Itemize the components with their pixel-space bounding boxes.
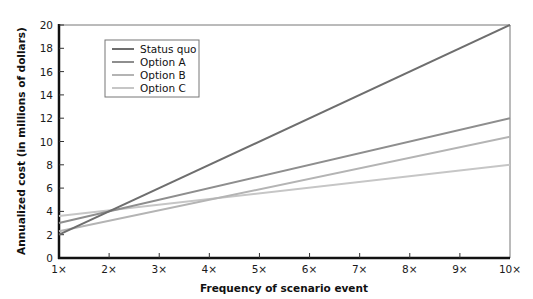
x-tick-label: 6× <box>302 263 317 275</box>
legend: Status quoOption AOption BOption C <box>105 40 199 97</box>
x-tick-label: 3× <box>151 263 166 275</box>
series-line-option-b <box>59 137 510 231</box>
y-tick-label: 4 <box>46 205 53 217</box>
x-tick-label: 1× <box>51 263 66 275</box>
y-tick-label: 2 <box>46 229 53 241</box>
y-tick-label: 18 <box>40 42 53 54</box>
series-line-option-c <box>59 165 510 216</box>
y-tick-label: 12 <box>40 112 53 124</box>
x-tick-label: 7× <box>352 263 367 275</box>
y-tick-label: 10 <box>40 136 53 148</box>
x-tick-label: 9× <box>452 263 467 275</box>
legend-label: Option C <box>140 82 186 94</box>
x-tick-label: 8× <box>402 263 417 275</box>
x-tick-label: 5× <box>252 263 267 275</box>
x-axis-title: Frequency of scenario event <box>200 282 368 294</box>
legend-label: Status quo <box>140 43 197 55</box>
series-line-option-a <box>59 118 510 223</box>
x-tick-label: 4× <box>202 263 217 275</box>
y-axis-ticks: 02468101214161820 <box>40 19 64 264</box>
y-tick-label: 8 <box>46 159 53 171</box>
x-tick-label: 10× <box>499 263 521 275</box>
x-axis-ticks: 1×2×3×4×5×6×7×8×9×10× <box>51 253 521 275</box>
y-tick-label: 6 <box>46 182 53 194</box>
y-tick-label: 16 <box>40 66 54 78</box>
x-tick-label: 2× <box>101 263 116 275</box>
legend-label: Option B <box>140 69 186 81</box>
y-tick-label: 14 <box>40 89 54 101</box>
y-axis-title: Annualized cost (in millions of dollars) <box>15 27 27 255</box>
line-chart: 02468101214161820 1×2×3×4×5×6×7×8×9×10× … <box>0 0 533 299</box>
y-tick-label: 20 <box>40 19 53 31</box>
legend-label: Option A <box>140 56 186 68</box>
